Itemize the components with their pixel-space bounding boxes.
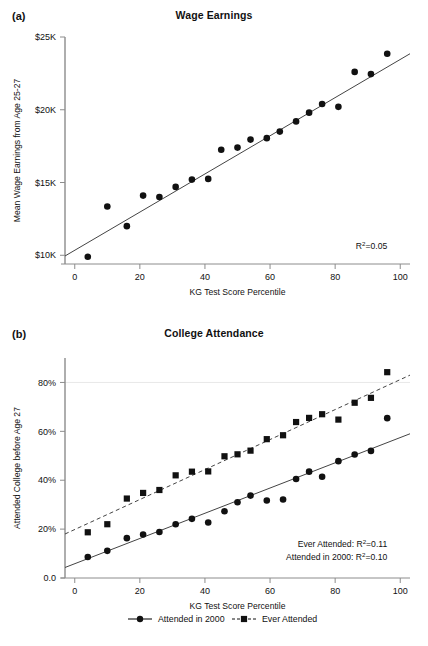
data-point bbox=[104, 548, 111, 555]
x-tick-label: 100 bbox=[393, 272, 408, 282]
x-tick-label: 0 bbox=[72, 586, 77, 596]
x-tick-label: 40 bbox=[200, 272, 210, 282]
data-point bbox=[247, 448, 253, 454]
data-point bbox=[368, 71, 375, 78]
data-point bbox=[173, 472, 179, 478]
r-squared-annotation: Ever Attended: R2=0.11 bbox=[298, 538, 388, 549]
data-point bbox=[368, 395, 374, 401]
y-tick-label: $20K bbox=[35, 105, 56, 115]
data-point bbox=[306, 468, 313, 475]
data-point bbox=[85, 529, 91, 535]
data-point bbox=[189, 516, 196, 523]
data-point bbox=[351, 69, 358, 76]
data-point bbox=[221, 453, 227, 459]
r-squared-annotation: R2=0.05 bbox=[356, 240, 388, 251]
data-point bbox=[205, 519, 212, 526]
data-point bbox=[277, 128, 284, 135]
y-tick-label: 60% bbox=[38, 427, 56, 437]
data-point bbox=[306, 109, 313, 116]
data-point bbox=[306, 415, 312, 421]
y-tick-label: 40% bbox=[38, 475, 56, 485]
y-tick-label: $15K bbox=[35, 178, 56, 188]
y-axis-title: Attended College before Age 27 bbox=[12, 407, 22, 529]
x-tick-label: 40 bbox=[200, 586, 210, 596]
y-tick-label: 0.0 bbox=[43, 573, 56, 583]
data-point bbox=[205, 468, 211, 474]
y-tick-label: 80% bbox=[38, 378, 56, 388]
panel-b-title: College Attendance bbox=[0, 327, 428, 339]
y-tick-label: $25K bbox=[35, 32, 56, 42]
data-point bbox=[124, 495, 130, 501]
data-point bbox=[352, 400, 358, 406]
data-point bbox=[140, 192, 147, 199]
r-squared-annotation: Attended in 2000: R2=0.10 bbox=[286, 551, 387, 562]
data-point bbox=[263, 497, 270, 504]
data-point bbox=[368, 448, 375, 455]
x-axis-title: KG Test Score Percentile bbox=[190, 601, 286, 611]
data-point bbox=[221, 508, 228, 515]
data-point bbox=[335, 104, 342, 111]
x-tick-label: 0 bbox=[72, 272, 77, 282]
data-point bbox=[335, 458, 342, 465]
chart-a-canvas: $10K$15K$20K$25K020406080100KG Test Scor… bbox=[0, 0, 428, 320]
data-point bbox=[124, 535, 131, 542]
legend-label: Ever Attended bbox=[262, 614, 317, 624]
y-tick-label: 20% bbox=[38, 524, 56, 534]
data-point bbox=[234, 144, 241, 151]
data-point bbox=[319, 411, 325, 417]
legend-marker bbox=[241, 616, 247, 622]
data-point bbox=[319, 474, 326, 481]
data-point bbox=[140, 531, 147, 538]
data-point bbox=[218, 146, 225, 153]
chart-legend: Attended in 2000Ever Attended bbox=[128, 614, 317, 624]
data-point bbox=[156, 194, 163, 201]
data-point bbox=[104, 521, 110, 527]
data-point bbox=[280, 432, 286, 438]
data-point bbox=[247, 136, 254, 143]
x-tick-label: 100 bbox=[393, 586, 408, 596]
data-point bbox=[84, 253, 91, 260]
fit-line bbox=[65, 54, 410, 256]
data-point bbox=[156, 487, 162, 493]
x-tick-label: 80 bbox=[330, 586, 340, 596]
data-point bbox=[384, 415, 391, 422]
legend-marker bbox=[137, 616, 143, 622]
series-ever-attended bbox=[85, 369, 391, 535]
y-axis-title: Mean Wage Earnings from Age 25-27 bbox=[12, 79, 22, 223]
data-point bbox=[351, 451, 358, 458]
data-point bbox=[84, 554, 91, 561]
panel-wage-earnings: (a) Wage Earnings $10K$15K$20K$25K020406… bbox=[0, 0, 428, 320]
data-point bbox=[280, 496, 287, 503]
data-point bbox=[124, 223, 131, 230]
x-axis-title: KG Test Score Percentile bbox=[190, 287, 286, 297]
panel-college-attendance: (b) College Attendance 0.020%40%60%80%02… bbox=[0, 320, 428, 646]
data-point bbox=[319, 101, 326, 108]
legend-label: Attended in 2000 bbox=[158, 614, 225, 624]
x-tick-label: 60 bbox=[265, 272, 275, 282]
figure-container: (a) Wage Earnings $10K$15K$20K$25K020406… bbox=[0, 0, 428, 646]
data-point bbox=[293, 476, 300, 483]
data-point bbox=[264, 436, 270, 442]
data-point bbox=[293, 419, 299, 425]
data-point bbox=[293, 118, 300, 125]
data-point bbox=[384, 369, 390, 375]
x-tick-label: 60 bbox=[265, 586, 275, 596]
data-point bbox=[234, 499, 241, 506]
data-point bbox=[205, 176, 212, 183]
data-point bbox=[247, 492, 254, 499]
data-point bbox=[156, 529, 163, 536]
data-point bbox=[189, 469, 195, 475]
data-point bbox=[104, 203, 111, 210]
data-point bbox=[263, 135, 270, 142]
x-tick-label: 20 bbox=[135, 272, 145, 282]
chart-b-canvas: 0.020%40%60%80%020406080100KG Test Score… bbox=[0, 320, 428, 646]
x-tick-label: 20 bbox=[135, 586, 145, 596]
data-point bbox=[189, 176, 196, 183]
x-tick-label: 80 bbox=[330, 272, 340, 282]
data-point bbox=[140, 490, 146, 496]
data-point bbox=[234, 451, 240, 457]
data-point bbox=[384, 50, 391, 57]
data-point bbox=[172, 521, 179, 528]
panel-a-title: Wage Earnings bbox=[0, 9, 428, 21]
data-point bbox=[335, 417, 341, 423]
